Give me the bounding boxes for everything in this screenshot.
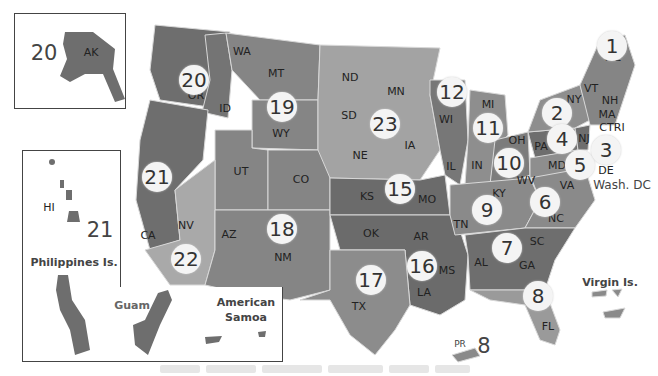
state-label[interactable]: MO	[418, 193, 436, 206]
state-label[interactable]: SD	[341, 109, 356, 122]
state-label[interactable]: WV	[517, 174, 535, 187]
region-badge[interactable]: 3	[591, 135, 621, 165]
state-label[interactable]: IA	[405, 139, 416, 152]
state-label[interactable]: TN	[454, 218, 469, 231]
state-label[interactable]: OH	[509, 134, 526, 147]
washington-dc-label: Wash. DC	[593, 178, 651, 193]
region-badge[interactable]: 22	[171, 244, 201, 274]
state-label[interactable]: PA	[534, 140, 547, 153]
state-label[interactable]: MD	[548, 159, 566, 172]
us-region-map: WA OR ID MT WY ND SD MN NE IA CA NV UT C…	[0, 0, 658, 376]
region-badge[interactable]: 19	[267, 92, 297, 122]
puerto-rico-region-number[interactable]: 8	[477, 334, 490, 358]
region-badge[interactable]: 11	[473, 113, 503, 143]
alaska-region-number[interactable]: 20	[31, 41, 58, 65]
region-badge[interactable]: 23	[370, 109, 400, 139]
state-label[interactable]: AZ	[221, 228, 236, 241]
state-label[interactable]: FL	[542, 320, 554, 333]
state-label[interactable]: TX	[352, 300, 366, 313]
region-badge[interactable]: 21	[142, 162, 172, 192]
region-badge[interactable]: 8	[523, 281, 553, 311]
region-badge[interactable]: 18	[267, 214, 297, 244]
region-badge[interactable]: 12	[437, 77, 467, 107]
state-label[interactable]: IN	[471, 159, 482, 172]
state-label[interactable]: AR	[413, 230, 428, 243]
region-badge[interactable]: 7	[492, 233, 522, 263]
state-label[interactable]: MA	[598, 108, 615, 121]
state-label[interactable]: UT	[234, 165, 249, 178]
state-label[interactable]: NV	[178, 219, 194, 232]
hawaii-region-number[interactable]: 21	[87, 218, 114, 242]
region-badge[interactable]: 2	[542, 98, 572, 128]
american-samoa-label: American Samoa	[217, 295, 275, 325]
american-samoa-shape	[205, 336, 222, 344]
guam-label: Guam	[114, 298, 150, 313]
state-label[interactable]: WA	[233, 45, 251, 58]
state-label[interactable]: LA	[417, 286, 431, 299]
hawaii-big-island-shape	[67, 211, 80, 222]
state-label[interactable]: ND	[342, 71, 359, 84]
state-label[interactable]: ID	[219, 102, 231, 115]
region-badge[interactable]: 17	[356, 265, 386, 295]
state-label[interactable]: AL	[474, 256, 488, 269]
virgin-islands-shape	[592, 289, 625, 318]
state-label[interactable]: CO	[293, 173, 309, 186]
region-badge[interactable]: 9	[472, 195, 502, 225]
map-caption-blurred	[160, 358, 500, 368]
state-label[interactable]: MT	[268, 67, 284, 80]
state-label[interactable]: OK	[363, 227, 379, 240]
state-label[interactable]: WY	[272, 127, 290, 140]
state-label[interactable]: NH	[602, 94, 619, 107]
state-label[interactable]: NE	[352, 149, 367, 162]
region-badge[interactable]: 15	[385, 174, 415, 204]
state-label[interactable]: SC	[530, 235, 545, 248]
virgin-islands-label: Virgin Is.	[582, 275, 638, 290]
state-label[interactable]: DE	[598, 164, 613, 177]
state-label[interactable]: VA	[560, 179, 574, 192]
region-badge[interactable]: 5	[565, 150, 595, 180]
region-badge[interactable]: 4	[547, 124, 577, 154]
region-badge[interactable]: 1	[597, 31, 627, 61]
state-label[interactable]: MN	[387, 85, 405, 98]
state-label[interactable]: WI	[439, 113, 453, 126]
state-label[interactable]: VT	[584, 82, 598, 95]
state-label[interactable]: GA	[519, 259, 535, 272]
region-badge[interactable]: 16	[407, 251, 437, 281]
state-label[interactable]: NJ	[578, 132, 589, 145]
state-label[interactable]: CTRI	[599, 121, 624, 134]
region-badge[interactable]: 6	[530, 187, 560, 217]
region-badge[interactable]: 10	[494, 148, 524, 178]
puerto-rico-label: PR	[454, 337, 466, 352]
state-label[interactable]: IL	[446, 160, 455, 173]
philippines-label: Philippines Is.	[30, 255, 117, 270]
state-label[interactable]: NM	[274, 251, 292, 264]
state-label[interactable]: AK	[84, 46, 99, 59]
state-label[interactable]: CA	[140, 229, 155, 242]
state-label[interactable]: MS	[439, 264, 455, 277]
philippines-shape	[56, 275, 90, 355]
region-badge[interactable]: 20	[179, 65, 209, 95]
state-label[interactable]: HI	[43, 201, 55, 214]
state-label[interactable]: KS	[360, 190, 374, 203]
state-label[interactable]: MI	[482, 98, 495, 111]
